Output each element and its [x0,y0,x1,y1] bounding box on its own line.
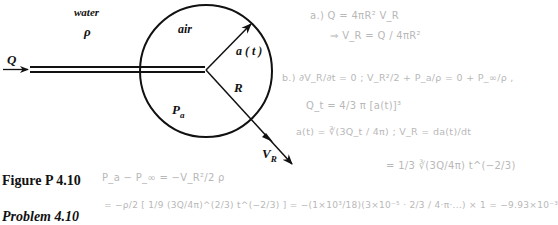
air-label: air [178,22,192,37]
handwritten-line-1: a.) Q = 4πR² V_R [310,10,399,21]
density-label: ρ [84,24,91,40]
figure-caption: Figure P 4.10 [2,173,81,189]
handwritten-line-8: = −ρ/2 [ 1/9 (3Q/4π)^(2/3) t^(−2/3) ] = … [104,200,558,210]
handwritten-line-3: b.) ∂V_R/∂t = 0 ; V_R²/2 + P_a/ρ = 0 + P… [282,72,514,83]
radial-velocity-label: VR [262,146,277,164]
water-label: water [74,6,99,18]
handwritten-line-4: Q_t = 4/3 π [a(t)]³ [306,100,401,111]
air-pressure-label: Pa [172,102,185,120]
problem-label: Problem 4.10 [2,209,79,225]
handwritten-line-2: ⇒ V_R = Q / 4πR² [330,30,421,41]
bubble-radius-label: a ( t ) [236,44,262,59]
flow-rate-label: Q [7,52,16,68]
handwritten-line-7: P_a − P_∞ = −V_R²/2 ρ [102,172,225,183]
radius-line-R [206,70,292,164]
handwritten-line-6: = 1/3 ∛(3Q/4π) t^(−2/3) [386,160,516,171]
radius-label: R [234,80,243,96]
handwritten-line-5: a(t) = ∛(3Q_t / 4π) ; V_R = da(t)/dt [296,126,471,137]
velocity-mid-arrowhead [262,133,273,142]
